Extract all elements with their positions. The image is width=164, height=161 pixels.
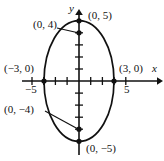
point-0-neg4 <box>76 127 81 132</box>
tick-label-5: 5 <box>124 84 130 95</box>
tick-label-neg5: −5 <box>25 84 37 95</box>
y-axis-label: y <box>69 3 74 14</box>
x-axis-label: x <box>152 63 157 74</box>
figure-canvas: (0, 5) (0, 4) (−3, 0) (3, 0) (0, −4) (0,… <box>0 0 164 161</box>
leader-line-0-neg4 <box>45 111 78 129</box>
point-0-5 <box>76 18 81 23</box>
point-0-4 <box>76 30 81 35</box>
label-point-0-neg5: (0, −5) <box>86 143 116 154</box>
label-point-0-5: (0, 5) <box>88 10 112 21</box>
label-point-0-neg4: (0, −4) <box>4 104 34 115</box>
label-point-0-4: (0, 4) <box>33 19 57 30</box>
label-point-3-0: (3, 0) <box>119 63 143 74</box>
ellipse-graph-svg <box>0 0 164 161</box>
point-3-0 <box>111 78 116 83</box>
label-point-neg3-0: (−3, 0) <box>4 63 34 74</box>
point-0-neg5 <box>76 139 81 144</box>
point-neg3-0 <box>41 78 46 83</box>
